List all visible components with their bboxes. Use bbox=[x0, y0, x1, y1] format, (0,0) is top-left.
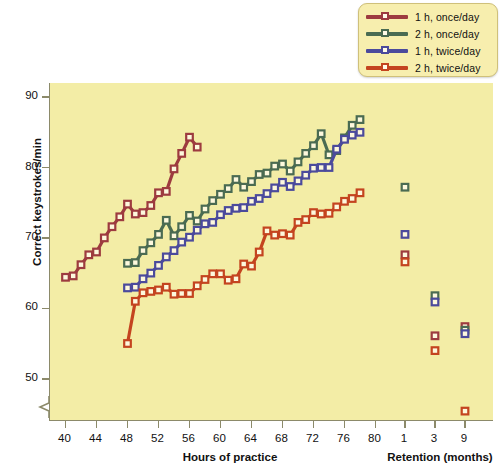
legend-swatch-icon bbox=[366, 63, 408, 72]
data-point bbox=[225, 185, 232, 192]
data-point bbox=[264, 228, 271, 235]
data-point bbox=[186, 234, 193, 241]
legend-swatch-icon bbox=[366, 46, 408, 55]
y-axis-tick-label: 80 bbox=[12, 160, 38, 172]
y-axis-tick-label: 90 bbox=[12, 89, 38, 101]
data-point bbox=[256, 171, 263, 178]
retention-axis-tick bbox=[404, 421, 406, 428]
data-point bbox=[333, 146, 340, 153]
data-point bbox=[295, 178, 302, 185]
data-point bbox=[279, 161, 286, 168]
data-point bbox=[101, 235, 108, 242]
y-axis-tick bbox=[42, 237, 49, 239]
x-axis-tick-label: 60 bbox=[205, 432, 235, 444]
data-point bbox=[248, 263, 255, 270]
data-point bbox=[178, 223, 185, 230]
data-point bbox=[109, 223, 116, 230]
data-point bbox=[70, 273, 77, 280]
y-axis-tick-label: 60 bbox=[12, 300, 38, 312]
retention-data-point bbox=[402, 259, 409, 266]
y-axis-tick-label: 50 bbox=[12, 371, 38, 383]
data-point bbox=[78, 261, 85, 268]
data-point bbox=[148, 270, 155, 277]
data-point bbox=[271, 185, 278, 192]
legend-item: 1 h, twice/day bbox=[359, 42, 497, 59]
data-point bbox=[148, 288, 155, 295]
data-point bbox=[349, 122, 356, 129]
data-point bbox=[287, 232, 294, 239]
data-point bbox=[318, 130, 325, 137]
x-axis-tick-label: 56 bbox=[174, 432, 204, 444]
data-point bbox=[357, 116, 364, 123]
data-point bbox=[357, 190, 364, 197]
x-axis-tick-label: 80 bbox=[360, 432, 390, 444]
data-point bbox=[240, 184, 247, 191]
data-point bbox=[194, 227, 201, 234]
data-point bbox=[225, 207, 232, 214]
data-point bbox=[248, 178, 255, 185]
data-point bbox=[287, 183, 294, 190]
data-point bbox=[302, 150, 309, 157]
data-point bbox=[140, 276, 147, 283]
data-point bbox=[171, 166, 178, 173]
data-point bbox=[62, 274, 69, 281]
data-point bbox=[178, 290, 185, 297]
data-point bbox=[240, 204, 247, 211]
retention-axis-label: Retention (months) bbox=[378, 451, 502, 463]
y-axis-tick-label: 70 bbox=[12, 230, 38, 242]
data-point bbox=[132, 284, 139, 291]
x-axis-tick-label: 76 bbox=[329, 432, 359, 444]
data-point bbox=[140, 247, 147, 254]
data-point bbox=[217, 211, 224, 218]
plot-area bbox=[49, 83, 493, 421]
x-axis-tick-label: 52 bbox=[143, 432, 173, 444]
data-point bbox=[326, 164, 333, 171]
data-point bbox=[140, 290, 147, 297]
data-point bbox=[256, 195, 263, 202]
retention-data-point bbox=[432, 333, 439, 340]
retention-data-point bbox=[462, 408, 469, 415]
data-point bbox=[295, 159, 302, 166]
data-point bbox=[163, 188, 170, 195]
x-axis-tick-label: 72 bbox=[298, 432, 328, 444]
data-point bbox=[93, 249, 100, 256]
y-axis-tick bbox=[42, 308, 49, 310]
chart-legend: 1 h, once/day2 h, once/day1 h, twice/day… bbox=[358, 3, 498, 77]
data-point bbox=[279, 179, 286, 186]
data-point bbox=[256, 249, 263, 256]
data-point bbox=[310, 142, 317, 149]
legend-item: 2 h, once/day bbox=[359, 25, 497, 42]
retention-axis-tick bbox=[434, 421, 436, 428]
data-point bbox=[140, 209, 147, 216]
retention-axis-tick-label: 9 bbox=[452, 432, 476, 444]
x-axis-label: Hours of practice bbox=[110, 451, 350, 463]
data-point bbox=[155, 262, 162, 269]
data-point bbox=[240, 261, 247, 268]
data-point bbox=[318, 164, 325, 171]
data-point bbox=[349, 132, 356, 139]
x-axis-tick bbox=[96, 421, 98, 428]
x-axis-tick-label: 48 bbox=[112, 432, 142, 444]
y-axis-tick bbox=[42, 96, 49, 98]
data-point bbox=[341, 136, 348, 143]
data-point bbox=[233, 205, 240, 212]
y-axis-label: Correct keystrokes/min bbox=[31, 117, 43, 287]
data-point bbox=[178, 150, 185, 157]
data-point bbox=[349, 195, 356, 202]
legend-item: 1 h, once/day bbox=[359, 8, 497, 25]
x-axis-tick-label: 40 bbox=[50, 432, 80, 444]
data-point bbox=[194, 283, 201, 290]
data-point bbox=[264, 190, 271, 197]
x-axis-tick bbox=[189, 421, 191, 428]
data-point bbox=[194, 218, 201, 225]
data-point bbox=[310, 165, 317, 172]
x-axis-tick bbox=[375, 421, 377, 428]
legend-item-label: 2 h, twice/day bbox=[415, 62, 481, 74]
data-point bbox=[163, 284, 170, 291]
data-point bbox=[148, 202, 155, 209]
retention-data-point bbox=[432, 347, 439, 354]
data-point bbox=[209, 197, 216, 204]
data-point bbox=[178, 239, 185, 246]
data-point bbox=[225, 277, 232, 284]
data-point bbox=[194, 144, 201, 151]
